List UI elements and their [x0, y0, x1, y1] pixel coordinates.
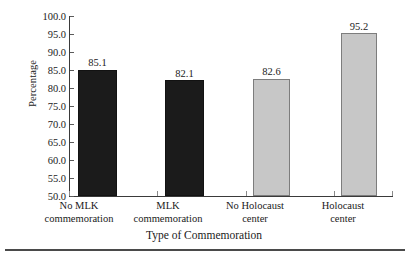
y-tick-label: 100.0: [26, 12, 66, 22]
y-tick-mark: [70, 88, 74, 89]
y-tick-label: 60.0: [26, 156, 66, 166]
x-category-line: center: [297, 212, 389, 225]
x-category-line: No Holocaust: [209, 199, 301, 212]
y-tick-mark: [70, 34, 74, 35]
bar-value-label: 85.1: [78, 57, 117, 68]
x-category-line: center: [209, 212, 301, 225]
y-tick-mark: [70, 142, 74, 143]
y-tick-label: 85.0: [26, 66, 66, 76]
x-tick-mark: [157, 191, 158, 196]
x-category-line: commemoration: [33, 212, 125, 225]
x-category-line: commemoration: [122, 212, 214, 225]
y-tick-mark: [70, 16, 74, 17]
y-tick-label: 75.0: [26, 102, 66, 112]
x-category-line: No MLK: [33, 199, 125, 212]
y-tick-mark: [70, 70, 74, 71]
y-tick-mark: [70, 106, 74, 107]
bar[interactable]: [165, 80, 204, 196]
footer-divider: [5, 249, 405, 251]
y-tick-mark: [70, 124, 74, 125]
x-category-label: MLK commemoration: [122, 199, 214, 225]
bar-value-label: 82.6: [253, 66, 290, 77]
y-tick-label: 90.0: [26, 48, 66, 58]
y-tick-mark: [70, 178, 74, 179]
plot-area: 85.1 82.1 82.6 95.2: [69, 16, 393, 196]
y-tick-label: 55.0: [26, 174, 66, 184]
bar[interactable]: [341, 33, 377, 196]
x-category-label: Holocaust center: [297, 199, 389, 225]
x-tick-mark: [69, 191, 70, 196]
x-tick-mark: [334, 191, 335, 196]
y-tick-label: 80.0: [26, 84, 66, 94]
y-tick-mark: [70, 196, 74, 197]
bar[interactable]: [253, 79, 290, 196]
x-axis-line: [69, 196, 393, 197]
y-tick-mark: [70, 52, 74, 53]
y-tick-mark: [70, 160, 74, 161]
bar-chart-figure: Percentage 100.0 95.0 90.0 85.0 80.0 75.…: [0, 0, 408, 258]
y-tick-label: 95.0: [26, 30, 66, 40]
y-tick-label: 65.0: [26, 138, 66, 148]
bar[interactable]: [78, 70, 117, 196]
x-axis-title: Type of Commemoration: [0, 229, 408, 241]
bar-value-label: 82.1: [165, 68, 204, 79]
bar-value-label: 95.2: [341, 21, 377, 32]
x-category-line: MLK: [122, 199, 214, 212]
y-tick-label: 70.0: [26, 120, 66, 130]
x-category-label: No MLK commemoration: [33, 199, 125, 225]
x-tick-mark: [392, 191, 393, 196]
x-category-label: No Holocaust center: [209, 199, 301, 225]
x-category-line: Holocaust: [297, 199, 389, 212]
x-tick-mark: [246, 191, 247, 196]
